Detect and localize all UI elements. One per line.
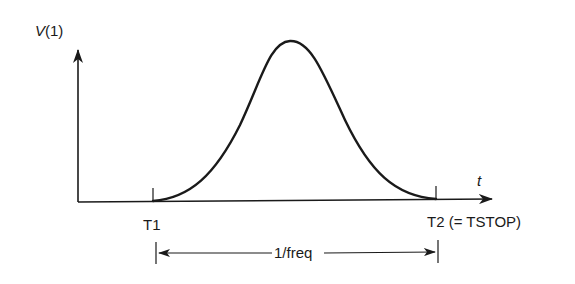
- x-axis-label: t: [477, 172, 482, 189]
- t2-label: T2 (= TSTOP): [427, 213, 521, 230]
- pulse-curve: [153, 41, 436, 201]
- t1-label: T1: [143, 216, 161, 233]
- y-axis-label: V(1): [35, 22, 63, 39]
- period-label: 1/freq: [274, 244, 312, 261]
- pulse-waveform-diagram: V(1) t T1 T2 (= TSTOP) 1/freq: [0, 0, 575, 284]
- period-arrow-right: [324, 252, 435, 253]
